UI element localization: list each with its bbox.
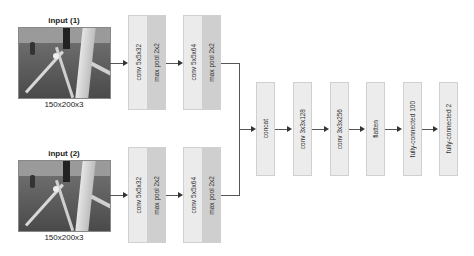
input-2-shape: 150x200x3: [18, 233, 110, 242]
arrowhead-icon: [324, 126, 329, 132]
layer-label: concat: [262, 119, 269, 138]
input-2-title: input (2): [18, 149, 110, 158]
layer-label: fully-connected 2: [445, 104, 452, 153]
conv-label: conv 5x5x32: [135, 44, 142, 81]
layer-label: conv 3x3x128: [299, 109, 306, 149]
arrowhead-icon: [397, 126, 402, 132]
arrowhead-icon: [433, 126, 438, 132]
top-block-2: conv 5x5x64 max pool 2x2: [183, 15, 221, 110]
conv-layer: conv 5x5x32: [129, 148, 147, 242]
pool-layer: max pool 2x2: [147, 16, 165, 109]
pool-label: max pool 2x2: [208, 43, 215, 82]
connector-top: [221, 63, 239, 64]
input-1-image: [18, 27, 111, 99]
pool-layer: max pool 2x2: [202, 148, 220, 242]
input-2-image: [18, 160, 111, 232]
layer-label: flatten: [372, 120, 379, 138]
bottom-block-1: conv 5x5x32 max pool 2x2: [128, 147, 166, 243]
layer-conv-128: conv 3x3x128: [293, 82, 312, 176]
conv-layer: conv 5x5x32: [129, 16, 147, 109]
pool-layer: max pool 2x2: [147, 148, 165, 242]
layer-label: conv 3x3x256: [336, 109, 343, 149]
arrowhead-icon: [287, 126, 292, 132]
pool-label: max pool 2x2: [208, 176, 215, 215]
conv-layer: conv 5x5x64: [184, 148, 202, 242]
input-1-title: input (1): [18, 16, 110, 25]
layer-concat: concat: [256, 82, 275, 176]
conv-layer: conv 5x5x64: [184, 16, 202, 109]
layer-fc-100: fully-connected 100: [403, 82, 422, 176]
input-1-shape: 150x200x3: [18, 100, 110, 109]
layer-label: fully-connected 100: [409, 101, 416, 157]
top-block-1: conv 5x5x32 max pool 2x2: [128, 15, 166, 110]
arrow-input1-to-conv1: [110, 63, 124, 64]
pool-label: max pool 2x2: [153, 176, 160, 215]
layer-flatten: flatten: [366, 82, 385, 176]
pool-label: max pool 2x2: [153, 43, 160, 82]
arrow-input2-to-conv1: [110, 195, 124, 196]
conv-label: conv 5x5x64: [190, 177, 197, 214]
bottom-block-2: conv 5x5x64 max pool 2x2: [183, 147, 221, 243]
conv-label: conv 5x5x32: [135, 177, 142, 214]
layer-fc-2: fully-connected 2: [439, 82, 458, 176]
pool-layer: max pool 2x2: [202, 16, 220, 109]
conv-label: conv 5x5x64: [190, 44, 197, 81]
layer-conv-256: conv 3x3x256: [330, 82, 349, 176]
connector-bottom: [221, 195, 239, 196]
arrowhead-icon: [360, 126, 365, 132]
